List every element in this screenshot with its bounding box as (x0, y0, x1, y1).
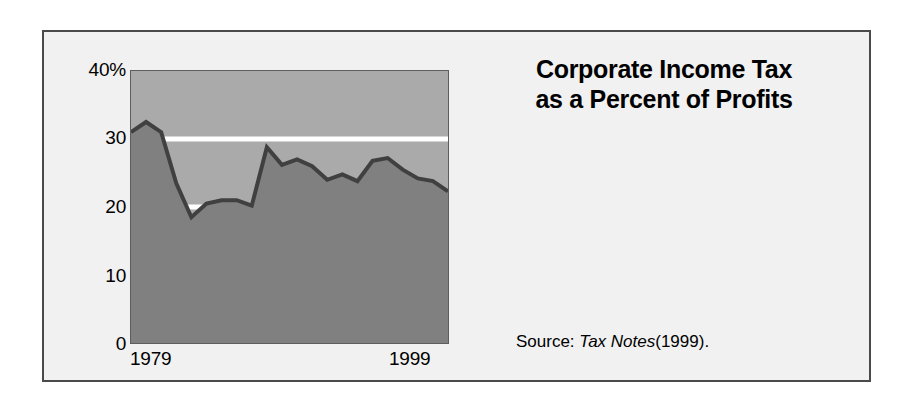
chart-title: Corporate Income Tax as a Percent of Pro… (464, 54, 864, 114)
source-publication: Tax Notes (579, 332, 655, 351)
x-axis-tick-start: 1979 (130, 348, 171, 370)
figure-root: 40% 30 20 10 0 1979 1999 Corporate Incom… (0, 0, 908, 414)
figure-panel: 40% 30 20 10 0 1979 1999 Corporate Incom… (42, 30, 871, 382)
y-axis-tick-20: 20 (44, 197, 126, 217)
area-series-fill (131, 122, 448, 343)
text-block: Corporate Income Tax as a Percent of Pro… (464, 32, 873, 384)
x-axis-tick-end: 1999 (389, 348, 430, 370)
y-axis-tick-0: 0 (44, 334, 126, 354)
y-axis-tick-labels: 40% 30 20 10 0 (44, 32, 126, 384)
source-year: (1999). (655, 332, 709, 351)
y-axis-tick-40: 40% (44, 60, 126, 80)
chart-title-line-2: as a Percent of Profits (464, 84, 864, 114)
chart-block: 40% 30 20 10 0 1979 1999 (44, 32, 464, 384)
chart-title-line-1: Corporate Income Tax (464, 54, 864, 84)
plot-area (130, 70, 449, 344)
source-label: Source: (516, 332, 575, 351)
y-axis-tick-10: 10 (44, 266, 126, 286)
source-note: Source: Tax Notes(1999). (516, 332, 709, 352)
y-axis-tick-30: 30 (44, 128, 126, 148)
area-chart-svg (131, 71, 448, 343)
